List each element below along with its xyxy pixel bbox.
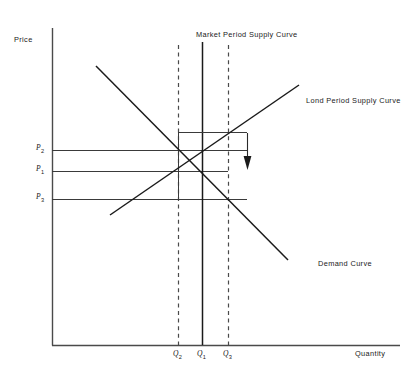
quantity-tick-q1-sub: 1 (203, 354, 206, 360)
long-period-supply-curve-label: Lond Period Supply Curve (306, 97, 401, 104)
equilibrium-box (178, 132, 247, 200)
price-tick-p1: P1 (36, 165, 44, 175)
market-period-supply-curve-label: Market Period Supply Curve (196, 31, 298, 38)
demand-curve (96, 66, 288, 260)
price-guide-lines (52, 151, 247, 200)
price-tick-p2: P2 (36, 144, 44, 154)
quantity-tick-q3: Q3 (223, 350, 232, 360)
quantity-tick-q1: Q1 (197, 350, 206, 360)
demand-curve-label: Demand Curve (318, 260, 372, 267)
price-tick-p3-sub: 3 (41, 197, 44, 203)
price-tick-p3: P3 (36, 193, 44, 203)
diagram-canvas (0, 0, 411, 389)
price-tick-p2-sub: 2 (41, 148, 44, 154)
axis-group (52, 28, 400, 346)
quantity-tick-q2: Q2 (173, 350, 182, 360)
x-axis-title: Quantity (355, 350, 385, 357)
quantity-tick-q2-sub: 2 (179, 354, 182, 360)
y-axis-title: Price (14, 36, 33, 43)
quantity-tick-q3-sub: 3 (229, 354, 232, 360)
arrow-head (244, 156, 252, 170)
price-tick-p1-sub: 1 (41, 169, 44, 175)
shift-arrow-down (244, 133, 252, 170)
supply-demand-diagram: Price Quantity Market Period Supply Curv… (0, 0, 411, 389)
quantity-guide-lines (179, 45, 229, 345)
